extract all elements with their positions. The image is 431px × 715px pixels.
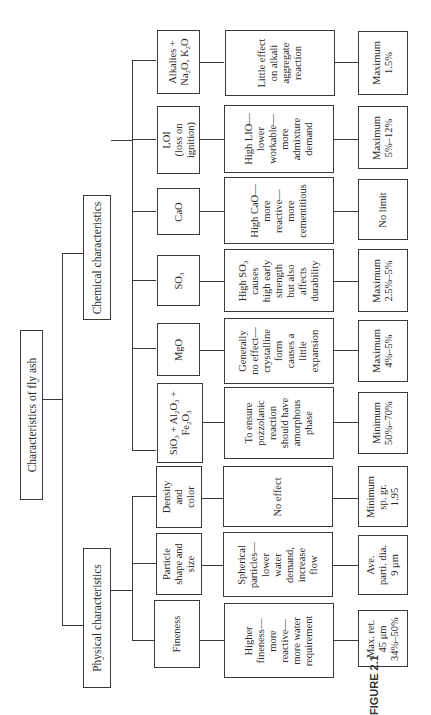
link-particle — [132, 563, 156, 564]
effect-line: form — [273, 327, 285, 374]
link-l4-alkalies — [200, 62, 224, 63]
limit-so3: Maximum 2.5%–5% — [358, 249, 408, 312]
effect-line: cementitious — [297, 184, 309, 238]
property-so3: SO3 — [157, 255, 200, 306]
link-l5-mgo — [333, 350, 358, 351]
limit-particle: Ave. parti. dia. 9 μm — [358, 535, 408, 595]
link-loi — [132, 139, 156, 140]
effect-line: causes — [249, 259, 261, 301]
root-box: Characteristics of fly ash — [20, 330, 43, 500]
effect-line: lower — [255, 113, 267, 165]
name-line: ignition) — [185, 122, 197, 158]
effect-line: High SO3 — [237, 259, 249, 301]
effect-line: High CaO— — [249, 184, 261, 238]
limit-density: Minimum sp. gr. 1.95 — [358, 466, 408, 527]
link-l5-alkalies — [333, 62, 358, 63]
link-l4-fineness — [200, 640, 224, 641]
chemical-bus — [132, 60, 133, 450]
property-cao: CaO — [157, 188, 200, 235]
effect-cao: High CaO— more reactive— more cementitio… — [224, 177, 334, 244]
property-alkalies: Alkalies + Na2O, K2O — [157, 30, 200, 94]
property-mgo: MgO — [157, 323, 200, 376]
link-l4-loi — [200, 139, 224, 140]
limit-line: 1.5% — [383, 41, 395, 85]
effect-line: fineness— — [255, 615, 267, 666]
effect-mgo: Generally no effect— crystalline form ca… — [224, 318, 334, 384]
limit-line: Maximum — [371, 116, 383, 160]
name-line: MgO — [173, 338, 185, 360]
limit-line: 4%–5% — [383, 329, 395, 373]
effect-line: No effect — [272, 477, 284, 516]
effect-line: flow — [308, 541, 320, 587]
limit-line: 50%–70% — [383, 401, 395, 445]
effect-line: should have — [279, 398, 291, 448]
link-cao — [132, 211, 156, 212]
limit-loi: Maximum 5%–12% — [358, 106, 408, 169]
figure-caption: FIGURE 2.1 — [368, 655, 380, 715]
limit-line: Maximum — [371, 329, 383, 373]
chemical-link-2 — [111, 140, 132, 141]
effect-line: more — [267, 615, 279, 666]
effect-line: High LIO— — [243, 113, 255, 165]
name-line: CaO — [173, 202, 185, 221]
effect-density: No effect — [223, 466, 333, 527]
effect-line: affects — [297, 259, 309, 301]
name-line: (loss on — [173, 122, 185, 158]
limit-line: 9 μm — [389, 545, 401, 585]
effect-line: Generally — [237, 327, 249, 374]
link-l5-density — [333, 498, 358, 499]
link-l4-density — [200, 498, 224, 499]
name-line: Na2O, K2O — [179, 38, 191, 85]
effect-line: particles— — [248, 541, 260, 587]
limit-line: Minimum — [371, 401, 383, 445]
name-line: LOI — [161, 122, 173, 158]
effect-particle: Spherical particles— lower water demand,… — [223, 532, 333, 597]
link-l4-cao — [200, 211, 224, 212]
limit-line: Max. ret. — [365, 617, 377, 661]
link-l5-cao — [333, 211, 358, 212]
effect-line: on alkali — [268, 38, 280, 87]
effect-line: demand, — [284, 541, 296, 587]
limit-line: No limit — [377, 192, 389, 227]
effect-line: high early — [261, 259, 273, 301]
effect-line: Higher — [243, 615, 255, 666]
name-line: SO3 — [173, 272, 185, 289]
link-l5-so3 — [333, 281, 358, 282]
link-so3 — [132, 280, 156, 281]
effect-alkalies: Little effect on alkali aggregate reacti… — [225, 30, 335, 96]
effect-line: lower — [260, 541, 272, 587]
limit-line: 2.5%–5% — [383, 259, 395, 303]
name-line: Fineness — [171, 616, 183, 653]
effect-line: amorphous — [291, 398, 303, 448]
effect-line: pozzolanic — [255, 398, 267, 448]
link-mgo — [132, 348, 156, 349]
name-line: Fe2O3 — [180, 391, 192, 455]
link-density — [132, 496, 156, 497]
effect-line: crystalline — [261, 327, 273, 374]
property-density-color: Density and color — [156, 466, 202, 528]
link-l4-so3 — [200, 281, 224, 282]
connector-root — [42, 399, 63, 400]
effect-line: requirement — [303, 615, 315, 666]
effect-loi: High LIO— lower workable— more admixture… — [224, 105, 334, 173]
property-particle-shape: Particle shape and size — [156, 533, 202, 595]
link-fineness — [132, 640, 156, 641]
effect-line: reaction — [267, 398, 279, 448]
link-l4-mgo — [200, 350, 224, 351]
limit-line: parti. dia. — [377, 545, 389, 585]
limit-line: 1.95 — [389, 475, 401, 517]
limit-line: 5%–12% — [383, 116, 395, 160]
link-l5-particle — [333, 565, 358, 566]
physical-link — [110, 590, 132, 591]
chemical-label: Chemical characteristics — [91, 201, 103, 314]
effect-line: water — [272, 541, 284, 587]
effect-line: more — [279, 113, 291, 165]
physical-characteristics-box: Physical characteristics — [83, 548, 111, 688]
effect-line: strength — [273, 259, 285, 301]
effect-so3: High SO3 causes high early strength but … — [224, 249, 334, 312]
effect-line: phase — [303, 398, 315, 448]
name-line: Alkalies + — [167, 38, 179, 85]
name-line: color — [185, 481, 197, 514]
effect-line: reaction — [292, 38, 304, 87]
name-line: SiO3 + Al2O3 + — [168, 391, 180, 455]
